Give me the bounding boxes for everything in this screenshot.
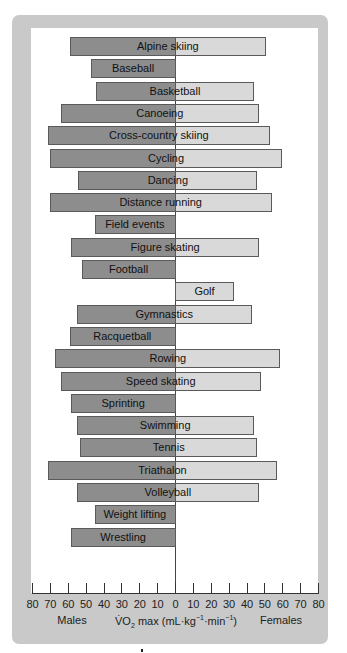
category-label: Distance running xyxy=(119,193,202,212)
tick-label: 80 xyxy=(312,598,324,610)
category-label: Cycling xyxy=(148,149,184,168)
axis-tick xyxy=(282,583,283,593)
category-label: Speed skating xyxy=(126,372,196,391)
tick-label: 20 xyxy=(205,598,217,610)
category-label: Canoeing xyxy=(136,104,183,123)
axis-tick xyxy=(193,583,194,593)
category-label: Field events xyxy=(105,215,164,234)
axis-caption-males: Males xyxy=(57,614,86,626)
axis-caption-vo2max: V̇O2 max (mL·kg−1·min−1) xyxy=(115,614,237,629)
category-label: Swimming xyxy=(140,416,191,435)
tick-label: 40 xyxy=(241,598,253,610)
category-label: Alpine skiing xyxy=(137,37,199,56)
category-label: Volleyball xyxy=(145,483,191,502)
axis-tick xyxy=(139,583,140,593)
axis-tick xyxy=(104,583,105,593)
units-sup-1: −1 xyxy=(196,614,204,621)
category-label: Racquetball xyxy=(93,327,151,346)
axis-tick xyxy=(318,583,319,593)
category-label: Weight lifting xyxy=(103,505,166,524)
category-label: Football xyxy=(109,260,148,279)
axis-tick xyxy=(247,583,248,593)
stray-mark xyxy=(141,649,143,652)
tick-label: 40 xyxy=(98,598,110,610)
tick-label: 30 xyxy=(223,598,235,610)
category-label: Rowing xyxy=(150,349,187,368)
axis-caption-females: Females xyxy=(260,614,302,626)
category-label: Gymnastics xyxy=(136,305,193,324)
axis-tick xyxy=(68,583,69,593)
category-label: Wrestling xyxy=(100,528,146,547)
category-label: Golf xyxy=(194,282,214,301)
bar-female xyxy=(175,104,259,123)
category-label: Tennis xyxy=(153,438,185,457)
axis-tick xyxy=(229,583,230,593)
tick-label: 50 xyxy=(259,598,271,610)
axis-tick xyxy=(300,583,301,593)
category-label: Cross-country skiing xyxy=(109,126,209,145)
axis-tick xyxy=(175,583,176,593)
category-label: Dancing xyxy=(148,171,188,190)
units-text-2: ·min xyxy=(204,615,225,627)
axis-line xyxy=(32,593,319,594)
tick-label: 30 xyxy=(116,598,128,610)
axis-tick xyxy=(86,583,87,593)
axis-tick xyxy=(121,583,122,593)
tick-label: 80 xyxy=(26,598,38,610)
category-label: Baseball xyxy=(112,59,154,78)
units-text: max (mL·kg xyxy=(135,615,196,627)
category-label: Figure skating xyxy=(131,238,200,257)
bar-female xyxy=(175,349,280,368)
vo2-text: V̇O xyxy=(115,615,131,627)
axis-tick xyxy=(50,583,51,593)
tick-label: 0 xyxy=(172,598,178,610)
bar-female xyxy=(175,149,282,168)
tick-label: 20 xyxy=(134,598,146,610)
tick-label: 60 xyxy=(62,598,74,610)
axis-tick xyxy=(211,583,212,593)
axis-tick xyxy=(157,583,158,593)
category-label: Triathalon xyxy=(138,461,187,480)
tick-label: 50 xyxy=(80,598,92,610)
tick-label: 70 xyxy=(295,598,307,610)
category-label: Sprinting xyxy=(101,394,144,413)
bar-female xyxy=(175,461,277,480)
tick-label: 10 xyxy=(187,598,199,610)
category-label: Basketball xyxy=(150,82,201,101)
axis-tick xyxy=(264,583,265,593)
tick-label: 60 xyxy=(277,598,289,610)
tick-label: 70 xyxy=(44,598,56,610)
bar-female xyxy=(175,438,257,457)
tick-label: 10 xyxy=(152,598,164,610)
units-close: ) xyxy=(233,615,237,627)
axis-tick xyxy=(32,583,33,593)
